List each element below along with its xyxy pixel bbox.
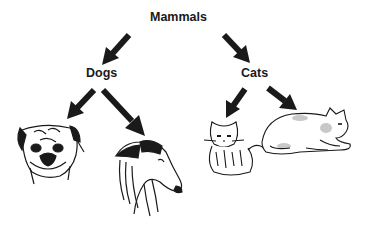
collie-illustration [116,141,182,216]
pug-illustration [18,125,84,184]
arrow-dogs-to-pug-icon [67,90,94,119]
arrow-cats-to-fluffy-cat-icon [226,89,245,118]
arrow-dogs-to-collie-icon [103,90,145,136]
arrow-cats-to-lying-cat-icon [268,88,297,110]
lying-cat-illustration [262,108,350,154]
arrow-mammals-to-dogs-icon [102,35,129,65]
diagram-graphics [0,0,367,238]
fluffy-cat-illustration [204,122,264,175]
arrow-mammals-to-cats-icon [224,35,250,63]
